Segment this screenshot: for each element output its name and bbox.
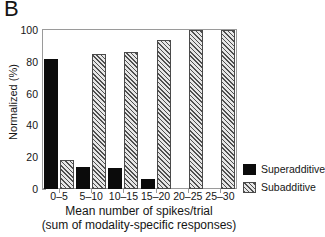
x-axis-title-line-2: (sum of modality-specific responses): [14, 218, 264, 232]
x-axis-title-line-1: Mean number of spikes/trial: [65, 204, 212, 218]
y-tick-label: 80: [12, 57, 38, 68]
legend-item-superadditive[interactable]: Superadditive: [243, 161, 325, 177]
bar-subadditive-5: [221, 30, 235, 189]
x-tick-mark: [156, 189, 157, 193]
x-tick-mark: [188, 189, 189, 193]
x-tick-mark: [59, 189, 60, 193]
x-tick-mark: [123, 189, 124, 193]
x-tick-mark: [91, 189, 92, 193]
legend-swatch-solid: [243, 164, 256, 175]
y-tick-mark: [42, 189, 46, 190]
legend-label: Superadditive: [261, 164, 325, 175]
legend-swatch-hatch: [243, 182, 256, 193]
bar-group: [43, 30, 236, 189]
legend-item-subadditive[interactable]: Subadditive: [243, 179, 325, 195]
legend: SuperadditiveSubadditive: [243, 161, 325, 197]
legend-label: Subadditive: [261, 182, 316, 193]
bars-layer: [43, 30, 236, 189]
y-tick-label: 0: [12, 184, 38, 195]
panel-label: B: [4, 0, 19, 20]
y-tick-label: 100: [12, 25, 38, 36]
y-tick-label: 60: [12, 89, 38, 100]
x-axis-title: Mean number of spikes/trial (sum of moda…: [14, 204, 264, 232]
x-tick-mark: [220, 189, 221, 193]
y-tick-label: 40: [12, 120, 38, 131]
y-tick-label: 20: [12, 152, 38, 163]
